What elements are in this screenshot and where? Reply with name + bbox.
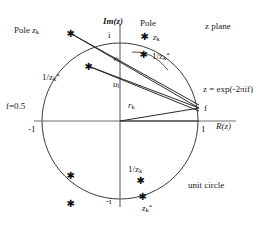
- z-exp-formula-label: z = exp(-2πif): [203, 85, 253, 94]
- z-exp-formula-text: z = exp(-2πif): [203, 84, 253, 94]
- inv-zk-lower-label: 1/zk: [128, 165, 142, 175]
- inv-conj-zk-left-label: 1/zk*: [42, 73, 60, 83]
- f-half-label: f=0.5: [6, 102, 25, 111]
- marker-pole-zk-upper-left-outside: ✱: [67, 30, 74, 37]
- vector-ul-subscript: l: [118, 82, 120, 89]
- marker-inv-conj-zk-upper-left-inside: ✱: [85, 63, 92, 70]
- marker-inv-conj-zk-upper-right-inside: ✱: [140, 51, 147, 58]
- marker-conj-pole-lower-left-inside: ✱: [67, 172, 74, 179]
- inv-zk-lower-num: 1/z: [128, 164, 139, 174]
- vector-vl-subscript: l: [117, 56, 119, 63]
- unit-circle-text: unit circle: [188, 180, 224, 190]
- pole-right-symbol-label: zk: [153, 33, 160, 43]
- z-plane-title: z plane: [205, 22, 231, 31]
- tick-one-text: 1: [201, 124, 206, 134]
- z-plane-diagram: ✱ ✱ ✱ ✱ ✱ ✱ ✱ ✱ Pole zk Im(z) i Pole zk …: [0, 0, 276, 226]
- inv-zk-lower-sub: k: [139, 167, 142, 174]
- tick-one-label: 1: [201, 125, 206, 134]
- conj-zk-lower-label: zk*: [142, 204, 152, 214]
- pole-right-text: Pole: [140, 18, 156, 28]
- vector-ul-line-b: [88, 66, 199, 111]
- vector-rk-label: rk: [128, 101, 135, 111]
- tick-minus-i-label: -i: [106, 197, 112, 206]
- pole-right-subscript: k: [157, 35, 160, 42]
- real-axis-text: R(z): [216, 121, 231, 131]
- inv-conj-zk-left-num: 1/z: [42, 72, 53, 82]
- pole-left-label: Pole zk: [14, 26, 39, 36]
- f-point-label: f: [204, 104, 207, 113]
- unit-circle-label: unit circle: [188, 181, 224, 190]
- imaginary-axis-text: Im(z): [103, 16, 123, 26]
- pole-right-label: Pole: [140, 19, 156, 28]
- tick-i-label: i: [108, 31, 111, 40]
- marker-conj-zk-lower-right-edge: ✱: [139, 193, 146, 200]
- tick-minus-one-text: -1: [28, 124, 36, 134]
- f-half-text: f=0.5: [6, 101, 25, 111]
- imaginary-axis-label: Im(z): [103, 17, 123, 26]
- pole-left-text: Pole: [14, 25, 30, 35]
- inv-conj-zk-right-num: 1/z: [152, 51, 163, 61]
- vector-ul-label: ul: [113, 80, 119, 90]
- tick-i-text: i: [108, 30, 111, 40]
- real-axis-label: R(z): [216, 122, 231, 131]
- z-plane-title-text: z plane: [205, 21, 231, 31]
- inv-conj-zk-right-label: 1/zk*: [152, 52, 170, 62]
- vector-vl-label: vl: [113, 54, 119, 64]
- inv-conj-zk-right-star: *: [166, 51, 170, 59]
- pole-left-subscript: k: [36, 28, 39, 35]
- conj-zk-lower-star: *: [149, 203, 153, 211]
- marker-pole-zk-upper-right-outside: ✱: [141, 33, 148, 40]
- inv-conj-zk-left-star: *: [56, 72, 60, 80]
- tick-minus-one-label: -1: [28, 125, 36, 134]
- marker-conj-pole-lower-left-outside: ✱: [67, 200, 74, 207]
- marker-inv-zk-lower-right-inside: ✱: [137, 177, 144, 184]
- tick-minus-i-text: -i: [106, 196, 112, 206]
- vector-rk-subscript: k: [132, 103, 135, 110]
- f-point-text: f: [204, 103, 207, 113]
